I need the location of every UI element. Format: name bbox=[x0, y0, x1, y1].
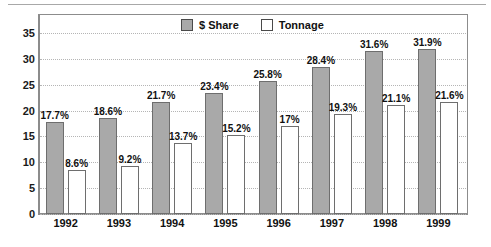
top-divider-rule bbox=[8, 4, 486, 5]
bar-tonnage: 19.3% bbox=[334, 114, 352, 214]
bar-value-label: 13.7% bbox=[169, 132, 197, 142]
bar-group: 31.9%21.6% bbox=[418, 33, 458, 214]
x-axis-tick: 1994 bbox=[160, 218, 184, 229]
x-axis-tick: 1992 bbox=[53, 218, 77, 229]
bar-value-label: 31.6% bbox=[360, 40, 388, 50]
bar-share: 18.6% bbox=[99, 118, 117, 214]
bar-value-label: 23.4% bbox=[200, 82, 228, 92]
bar-value-label: 15.2% bbox=[222, 124, 250, 134]
bar-group: 18.6%9.2% bbox=[99, 33, 139, 214]
y-axis-tick: 5 bbox=[5, 183, 35, 194]
bar-value-label: 31.9% bbox=[413, 38, 441, 48]
plot-area: 17.7%8.6%18.6%9.2%21.7%13.7%23.4%15.2%25… bbox=[40, 33, 466, 214]
bar-share: 25.8% bbox=[259, 81, 277, 214]
bar-group: 31.6%21.1% bbox=[365, 33, 405, 214]
gridline bbox=[40, 214, 466, 215]
legend-item-share: $ Share bbox=[181, 19, 239, 31]
bar-value-label: 21.6% bbox=[435, 91, 463, 101]
y-axis-tick: 20 bbox=[5, 105, 35, 116]
legend-item-tonnage: Tonnage bbox=[261, 19, 324, 31]
bar-tonnage: 21.1% bbox=[387, 105, 405, 214]
bar-share: 28.4% bbox=[312, 67, 330, 214]
y-axis-tick: 15 bbox=[5, 131, 35, 142]
bar-tonnage: 9.2% bbox=[121, 166, 139, 214]
bar-group: 28.4%19.3% bbox=[312, 33, 352, 214]
y-axis-tick: 0 bbox=[5, 209, 35, 220]
bar-value-label: 8.6% bbox=[65, 159, 88, 169]
bar-chart-figure: 05101520253035 17.7%8.6%18.6%9.2%21.7%13… bbox=[0, 0, 491, 247]
x-axis-tick: 1993 bbox=[107, 218, 131, 229]
bar-value-label: 28.4% bbox=[307, 56, 335, 66]
bar-value-label: 18.6% bbox=[94, 107, 122, 117]
x-axis-tick: 1998 bbox=[373, 218, 397, 229]
bar-value-label: 19.3% bbox=[329, 103, 357, 113]
y-axis-tick: 35 bbox=[5, 28, 35, 39]
x-axis-tick: 1996 bbox=[266, 218, 290, 229]
x-axis-tick: 1997 bbox=[320, 218, 344, 229]
bar-value-label: 17% bbox=[280, 115, 300, 125]
chart-legend: $ Share Tonnage bbox=[181, 19, 324, 31]
legend-label-share: $ Share bbox=[199, 19, 239, 31]
x-axis-tick: 1995 bbox=[213, 218, 237, 229]
legend-label-tonnage: Tonnage bbox=[279, 19, 324, 31]
bar-group: 23.4%15.2% bbox=[205, 33, 245, 214]
bar-tonnage: 13.7% bbox=[174, 143, 192, 214]
legend-swatch-share-icon bbox=[181, 19, 193, 31]
bar-value-label: 17.7% bbox=[40, 111, 68, 121]
bar-group: 17.7%8.6% bbox=[46, 33, 86, 214]
y-axis-tick: 25 bbox=[5, 79, 35, 90]
bar-tonnage: 15.2% bbox=[227, 135, 245, 214]
y-axis-tick: 30 bbox=[5, 53, 35, 64]
bar-share: 21.7% bbox=[152, 102, 170, 214]
y-axis-tick-labels: 05101520253035 bbox=[0, 0, 35, 247]
bar-value-label: 9.2% bbox=[118, 155, 141, 165]
x-axis-tick-labels: 19921993199419951996199719981999 bbox=[40, 218, 466, 238]
bar-share: 23.4% bbox=[205, 93, 223, 214]
bar-share: 31.9% bbox=[418, 49, 436, 214]
bar-share: 31.6% bbox=[365, 51, 383, 214]
x-axis-tick: 1999 bbox=[426, 218, 450, 229]
bar-group: 25.8%17% bbox=[259, 33, 299, 214]
bar-tonnage: 8.6% bbox=[68, 170, 86, 214]
bar-value-label: 25.8% bbox=[253, 70, 281, 80]
bar-tonnage: 17% bbox=[281, 126, 299, 214]
bar-value-label: 21.1% bbox=[382, 94, 410, 104]
y-axis-tick: 10 bbox=[5, 157, 35, 168]
bar-share: 17.7% bbox=[46, 122, 64, 214]
bar-tonnage: 21.6% bbox=[440, 102, 458, 214]
bar-group: 21.7%13.7% bbox=[152, 33, 192, 214]
legend-swatch-tonnage-icon bbox=[261, 19, 273, 31]
bar-value-label: 21.7% bbox=[147, 91, 175, 101]
